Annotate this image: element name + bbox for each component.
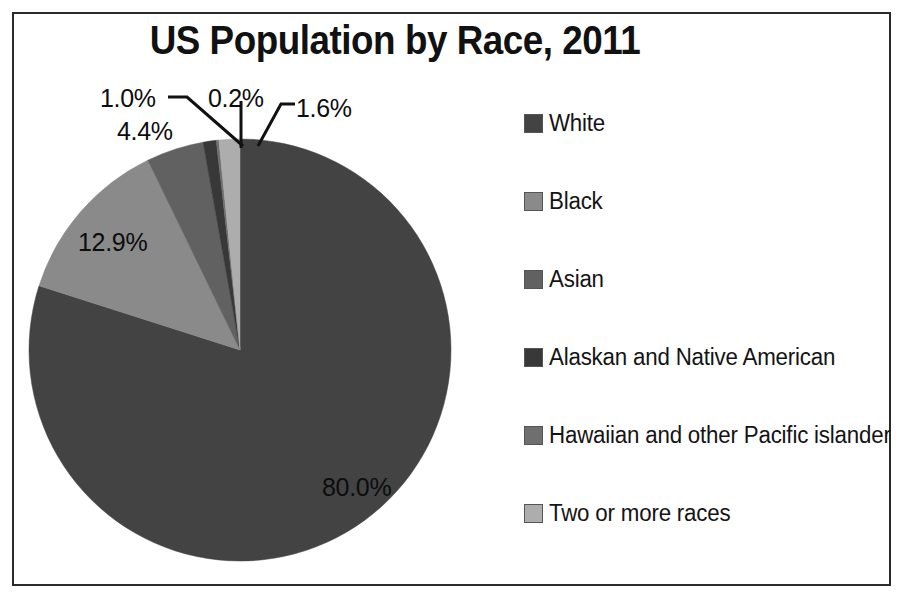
legend-item[interactable]: Asian xyxy=(524,266,884,292)
legend-item[interactable]: Alaskan and Native American xyxy=(524,344,884,370)
legend-swatch-icon xyxy=(524,114,543,133)
legend-swatch-icon xyxy=(524,504,543,523)
legend-item[interactable]: Hawaiian and other Pacific islander xyxy=(524,422,884,448)
legend-item[interactable]: Two or more races xyxy=(524,500,884,526)
legend-item-label: Hawaiian and other Pacific islander xyxy=(549,422,891,449)
legend-item-label: Two or more races xyxy=(549,500,730,527)
legend-item-label: Black xyxy=(549,188,603,215)
legend-swatch-icon xyxy=(524,192,543,211)
legend-item-label: Alaskan and Native American xyxy=(549,344,835,371)
data-label-asian: 4.4% xyxy=(117,117,173,146)
chart-legend: WhiteBlackAsianAlaskan and Native Americ… xyxy=(524,110,884,526)
legend-swatch-icon xyxy=(524,348,543,367)
data-label-black: 12.9% xyxy=(78,228,147,257)
data-label-two-or-more: 1.6% xyxy=(296,94,352,123)
legend-item[interactable]: Black xyxy=(524,188,884,214)
chart-title: US Population by Race, 2011 xyxy=(32,18,759,63)
legend-item[interactable]: White xyxy=(524,110,884,136)
data-label-alaskan: 1.0% xyxy=(100,84,156,113)
legend-item-label: Asian xyxy=(549,266,604,293)
legend-item-label: White xyxy=(549,110,605,137)
legend-swatch-icon xyxy=(524,426,543,445)
data-label-white: 80.0% xyxy=(322,473,391,502)
chart-container: US Population by Race, 2011 1.0% 4.4% 0.… xyxy=(0,0,901,595)
data-label-hawaiian: 0.2% xyxy=(208,84,264,113)
legend-swatch-icon xyxy=(524,270,543,289)
